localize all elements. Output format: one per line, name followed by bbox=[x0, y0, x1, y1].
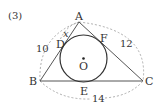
point-label-f: F bbox=[100, 32, 108, 45]
problem-label: (3) bbox=[8, 10, 22, 21]
point-label-e: E bbox=[80, 85, 88, 98]
point-label-b: B bbox=[29, 75, 37, 88]
length-bc: 14 bbox=[92, 93, 105, 104]
point-label-c: C bbox=[145, 75, 153, 88]
length-ad: x bbox=[63, 28, 69, 39]
point-label-o: O bbox=[79, 60, 88, 73]
incircle-diagram: (3) A B C D E F O 10 12 14 x bbox=[0, 0, 168, 108]
point-label-a: A bbox=[74, 10, 84, 23]
arc-bc-right bbox=[105, 81, 143, 98]
length-ac: 12 bbox=[120, 38, 133, 49]
triangle-abc bbox=[40, 22, 143, 81]
point-label-d: D bbox=[56, 38, 65, 51]
length-ab: 10 bbox=[36, 43, 49, 54]
